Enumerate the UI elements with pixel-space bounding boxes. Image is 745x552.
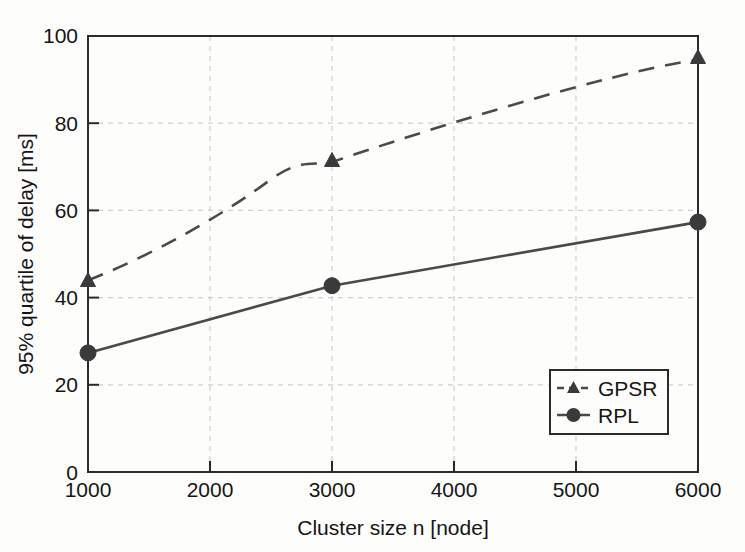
line-chart-svg: 100 80 60 40 20 0 1000 2000 3000 4000 50…: [0, 0, 745, 552]
xtick-label-5000: 5000: [553, 478, 600, 501]
rpl-point-6000: [690, 214, 706, 230]
rpl-point-3000: [324, 278, 340, 294]
y-axis-title: 95% quartile of delay [ms]: [14, 133, 37, 375]
x-axis-title: Cluster size n [node]: [297, 516, 488, 539]
ytick-label-60: 60: [55, 199, 78, 222]
chart-figure: 100 80 60 40 20 0 1000 2000 3000 4000 50…: [0, 0, 745, 552]
xtick-label-3000: 3000: [309, 478, 356, 501]
chart-legend[interactable]: GPSR RPL: [550, 370, 668, 434]
legend-label-gpsr: GPSR: [598, 377, 658, 400]
xtick-label-4000: 4000: [431, 478, 478, 501]
xtick-label-6000: 6000: [675, 478, 722, 501]
circle-marker: [567, 408, 581, 422]
rpl-point-1000: [80, 345, 96, 361]
xtick-label-1000: 1000: [65, 478, 112, 501]
ytick-label-20: 20: [55, 373, 78, 396]
figure-background: [0, 0, 745, 552]
xtick-label-2000: 2000: [187, 478, 234, 501]
legend-label-rpl: RPL: [598, 404, 639, 427]
ytick-label-40: 40: [55, 286, 78, 309]
ytick-label-80: 80: [55, 112, 78, 135]
ytick-label-100: 100: [43, 24, 78, 47]
